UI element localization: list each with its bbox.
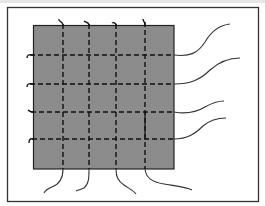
top-hook-3	[112, 23, 116, 25]
bottom-lead-1	[44, 169, 63, 193]
top-hooks	[59, 19, 145, 25]
left-hook-4	[29, 139, 33, 143]
right-leads	[174, 24, 240, 139]
panel	[34, 26, 175, 170]
top-hook-2	[84, 21, 89, 25]
right-lead-4	[174, 118, 226, 139]
right-lead-1	[174, 24, 230, 55]
right-lead-3	[174, 101, 224, 113]
top-hook-1	[59, 19, 63, 25]
left-hook-1	[27, 55, 33, 58]
right-lead-2	[174, 58, 240, 84]
left-hook-3	[28, 110, 33, 112]
bottom-lead-3	[116, 169, 136, 194]
bottom-lead-4	[145, 169, 192, 190]
left-hooks	[27, 55, 33, 143]
left-hook-2	[27, 84, 33, 87]
bottom-leads	[44, 169, 192, 194]
wire-grid-diagram	[0, 0, 265, 206]
top-hook-4	[143, 19, 145, 25]
bottom-lead-2	[76, 169, 89, 191]
